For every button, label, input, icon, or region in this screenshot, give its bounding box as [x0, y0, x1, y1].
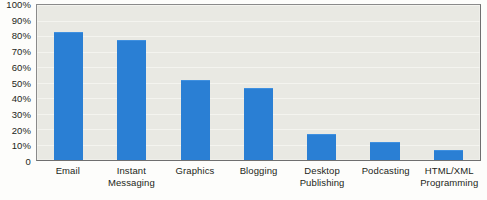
- y-axis-tick-label: 100%: [6, 0, 31, 10]
- x-axis: EmailInstantMessagingGraphicsBloggingDes…: [36, 165, 481, 188]
- bar-slot: [37, 5, 100, 160]
- bar-slot: [100, 5, 163, 160]
- bar-slot: [353, 5, 416, 160]
- x-axis-tick-label-line: Graphics: [163, 165, 227, 177]
- y-axis-tick-label: 20%: [12, 124, 31, 135]
- y-axis-tick-label: 90%: [12, 14, 31, 25]
- y-axis-tick-label: 50%: [12, 77, 31, 88]
- x-axis-tick-label-line: Email: [36, 165, 100, 177]
- bar: [117, 40, 146, 160]
- bar: [434, 150, 463, 160]
- x-axis-tick-label: HTML/XMLProgramming: [417, 165, 481, 188]
- y-axis-tick-label: 0: [26, 156, 31, 167]
- y-axis-tick-label: 80%: [12, 30, 31, 41]
- bar-series: [37, 5, 480, 160]
- x-axis-tick-label-line: Messaging: [100, 177, 164, 189]
- x-axis-tick-label-line: Blogging: [227, 165, 291, 177]
- x-axis-tick-label: Email: [36, 165, 100, 188]
- bar: [244, 88, 273, 160]
- x-axis-tick-label-line: Podcasting: [354, 165, 418, 177]
- x-axis-tick-label-line: Publishing: [290, 177, 354, 189]
- bar-slot: [227, 5, 290, 160]
- plot-area: [36, 4, 481, 161]
- x-axis-tick-label-line: Programming: [417, 177, 481, 189]
- y-axis-tick-label: 30%: [12, 108, 31, 119]
- bar: [181, 80, 210, 160]
- bar: [370, 142, 399, 160]
- bar-slot: [417, 5, 480, 160]
- x-axis-tick-label: DesktopPublishing: [290, 165, 354, 188]
- y-axis: 100%90%80%70%60%50%40%30%20%10%0: [0, 4, 34, 161]
- x-axis-tick-label-line: Desktop: [290, 165, 354, 177]
- bar: [307, 134, 336, 160]
- bar: [54, 32, 83, 160]
- x-axis-tick-label: Blogging: [227, 165, 291, 188]
- x-axis-tick-label: Podcasting: [354, 165, 418, 188]
- bar-slot: [290, 5, 353, 160]
- bar-slot: [164, 5, 227, 160]
- x-axis-tick-label: InstantMessaging: [100, 165, 164, 188]
- y-axis-tick-label: 10%: [12, 140, 31, 151]
- y-axis-tick-label: 60%: [12, 61, 31, 72]
- y-axis-tick-label: 40%: [12, 93, 31, 104]
- x-axis-tick-label: Graphics: [163, 165, 227, 188]
- bar-chart-figure: 100%90%80%70%60%50%40%30%20%10%0 EmailIn…: [0, 0, 487, 200]
- x-axis-tick-label-line: HTML/XML: [417, 165, 481, 177]
- x-axis-tick-label-line: Instant: [100, 165, 164, 177]
- y-axis-tick-label: 70%: [12, 46, 31, 57]
